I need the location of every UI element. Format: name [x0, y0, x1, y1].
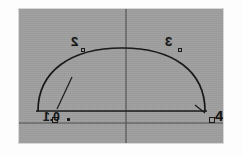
arc-right-dimension-label[interactable]: 3 — [165, 35, 172, 48]
square-node-marker-icon[interactable] — [81, 48, 85, 52]
leader-line-left — [57, 77, 72, 109]
arc-left-dimension-label[interactable]: 2 — [71, 35, 78, 48]
right-endpoint-value-label[interactable]: 4.5 — [215, 108, 224, 123]
sketch-viewport: 2 3 0.1 4.5 — [0, 0, 243, 156]
tick-marker-icon — [67, 118, 70, 121]
leader-line-right — [195, 105, 205, 113]
drawing-canvas[interactable]: 2 3 0.1 4.5 — [18, 8, 224, 144]
left-endpoint-value-label[interactable]: 0.1 — [43, 111, 60, 123]
square-node-marker-icon[interactable] — [178, 48, 182, 52]
semicircle-arc — [38, 48, 205, 111]
